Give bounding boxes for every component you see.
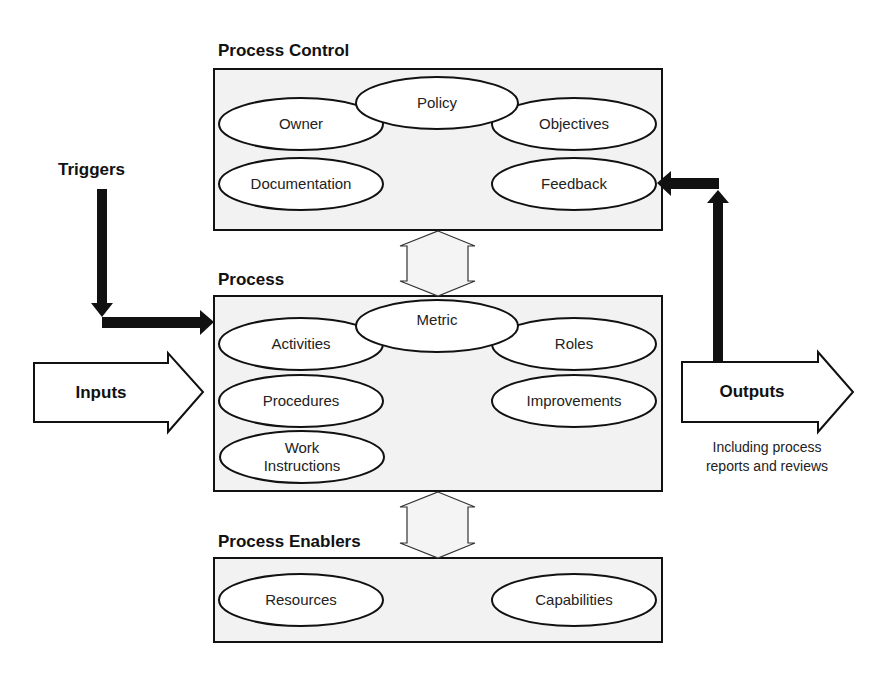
feedback-label: Feedback <box>492 158 656 210</box>
work-instructions-line1: Work <box>285 439 320 457</box>
feedback-arrow <box>657 171 729 362</box>
triggers-arrow <box>91 189 214 335</box>
work-instructions-line2: Instructions <box>264 457 341 475</box>
process-model-diagram: Process Control Process Process Enablers… <box>0 0 883 674</box>
objectives-label: Objectives <box>492 98 656 150</box>
work-instructions-label: Work Instructions <box>220 431 384 483</box>
process-control-title: Process Control <box>218 41 349 61</box>
process-enablers-title: Process Enablers <box>218 532 361 552</box>
documentation-label: Documentation <box>219 158 383 210</box>
roles-label: Roles <box>492 318 656 370</box>
outputs-note-line2: reports and reviews <box>672 457 862 476</box>
procedures-label: Procedures <box>219 375 383 427</box>
activities-label: Activities <box>219 318 383 370</box>
outputs-note-line1: Including process <box>672 438 862 457</box>
owner-label: Owner <box>219 98 383 150</box>
control-process-double-arrow <box>400 231 475 296</box>
outputs-note: Including process reports and reviews <box>672 438 862 476</box>
triggers-label: Triggers <box>58 160 125 180</box>
capabilities-label: Capabilities <box>492 574 656 626</box>
improvements-label: Improvements <box>492 375 656 427</box>
outputs-label: Outputs <box>682 362 822 422</box>
process-title: Process <box>218 270 284 290</box>
resources-label: Resources <box>219 574 383 626</box>
inputs-label: Inputs <box>34 363 168 422</box>
process-enablers-double-arrow <box>400 492 475 558</box>
